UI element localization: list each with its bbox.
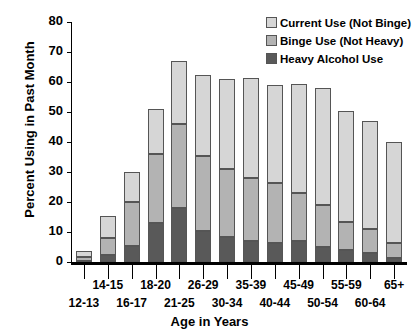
bar-30-34 bbox=[219, 79, 235, 262]
bar-65+ bbox=[386, 142, 402, 262]
x-axis-label-21-25: 21-25 bbox=[164, 296, 195, 310]
x-tick-65+ bbox=[394, 265, 395, 279]
x-axis-title: Age in Years bbox=[0, 314, 419, 329]
x-tick-45-49 bbox=[299, 265, 300, 279]
legend-swatch-current-icon bbox=[266, 17, 277, 28]
bar-segment-current-use bbox=[267, 85, 283, 183]
bar-segment-binge-use bbox=[291, 193, 307, 241]
x-tick-35-39 bbox=[251, 265, 252, 279]
x-axis-label-30-34: 30-34 bbox=[212, 296, 243, 310]
legend-item-heavy-use: Heavy Alcohol Use bbox=[266, 52, 418, 65]
x-axis-label-50-54: 50-54 bbox=[307, 296, 338, 310]
bar-segment-binge-use bbox=[100, 238, 116, 255]
x-axis-label-18-20: 18-20 bbox=[140, 278, 171, 292]
bar-segment-current-use bbox=[315, 88, 331, 205]
y-tick-label-70: 70 bbox=[49, 43, 63, 59]
x-tick-50-54 bbox=[323, 265, 324, 279]
bar-segment-binge-use bbox=[124, 202, 140, 246]
bar-14-15 bbox=[100, 216, 116, 263]
bar-segment-binge-use bbox=[243, 178, 259, 241]
legend-label-current-use: Current Use (Not Binge) bbox=[280, 17, 411, 29]
bar-segment-current-use bbox=[362, 121, 378, 229]
legend-swatch-binge-icon bbox=[266, 35, 277, 46]
legend-item-binge-use: Binge Use (Not Heavy) bbox=[266, 34, 418, 47]
bar-segment-heavy-use bbox=[100, 255, 116, 263]
x-axis-label-26-29: 26-29 bbox=[188, 278, 219, 292]
bar-35-39 bbox=[243, 78, 259, 263]
y-tick-label-40: 40 bbox=[49, 133, 63, 149]
bar-segment-current-use bbox=[100, 216, 116, 239]
bar-segment-heavy-use bbox=[124, 246, 140, 263]
x-axis-label-65+: 65+ bbox=[384, 278, 404, 292]
bar-segment-heavy-use bbox=[267, 243, 283, 263]
y-tick-label-10: 10 bbox=[49, 223, 63, 239]
bar-12-13 bbox=[76, 251, 92, 262]
bar-45-49 bbox=[291, 84, 307, 263]
x-axis-label-60-64: 60-64 bbox=[355, 296, 386, 310]
legend-label-heavy-use: Heavy Alcohol Use bbox=[280, 53, 383, 65]
x-tick-26-29 bbox=[203, 265, 204, 279]
x-axis-label-45-49: 45-49 bbox=[283, 278, 314, 292]
x-axis-label-35-39: 35-39 bbox=[236, 278, 267, 292]
bar-segment-current-use bbox=[219, 79, 235, 169]
legend-label-binge-use: Binge Use (Not Heavy) bbox=[280, 35, 403, 47]
bar-segment-heavy-use bbox=[243, 241, 259, 262]
y-tick-mark-0 bbox=[67, 262, 72, 263]
x-axis-line bbox=[71, 262, 407, 265]
bar-segment-binge-use bbox=[315, 205, 331, 247]
bar-16-17 bbox=[124, 172, 140, 262]
bar-segment-heavy-use bbox=[195, 231, 211, 263]
bar-segment-binge-use bbox=[195, 156, 211, 231]
bar-55-59 bbox=[338, 111, 354, 263]
bar-segment-current-use bbox=[243, 78, 259, 179]
bar-segment-heavy-use bbox=[386, 258, 402, 263]
bar-segment-heavy-use bbox=[362, 253, 378, 262]
bar-segment-current-use bbox=[195, 75, 211, 156]
bar-segment-binge-use bbox=[267, 183, 283, 243]
x-tick-21-25 bbox=[179, 265, 180, 279]
x-axis-label-14-15: 14-15 bbox=[92, 278, 123, 292]
x-axis-label-40-44: 40-44 bbox=[259, 296, 290, 310]
bar-50-54 bbox=[315, 88, 331, 262]
y-tick-label-80: 80 bbox=[49, 13, 63, 29]
legend: Current Use (Not Binge) Binge Use (Not H… bbox=[266, 16, 418, 70]
bar-18-20 bbox=[148, 109, 164, 262]
alcohol-use-by-age-chart: Percent Using in Past Month 80 70 60 50 … bbox=[0, 0, 419, 336]
bar-segment-binge-use bbox=[362, 229, 378, 253]
bar-60-64 bbox=[362, 121, 378, 262]
bar-26-29 bbox=[195, 75, 211, 263]
bar-segment-current-use bbox=[338, 111, 354, 222]
x-tick-18-20 bbox=[156, 265, 157, 279]
x-tick-12-13 bbox=[84, 265, 85, 279]
x-axis-label-16-17: 16-17 bbox=[116, 296, 147, 310]
bar-segment-heavy-use bbox=[338, 250, 354, 262]
bar-segment-current-use bbox=[171, 61, 187, 124]
x-axis-label-55-59: 55-59 bbox=[331, 278, 362, 292]
x-axis-label-12-13: 12-13 bbox=[69, 296, 100, 310]
bar-segment-current-use bbox=[124, 172, 140, 202]
y-tick-label-50: 50 bbox=[49, 103, 63, 119]
bar-40-44 bbox=[267, 85, 283, 262]
bar-segment-current-use bbox=[148, 109, 164, 154]
y-tick-label-60: 60 bbox=[49, 73, 63, 89]
x-tick-30-34 bbox=[227, 265, 228, 279]
bar-segment-heavy-use bbox=[148, 223, 164, 262]
bar-segment-binge-use bbox=[171, 124, 187, 208]
bar-segment-current-use bbox=[291, 84, 307, 194]
x-tick-40-44 bbox=[275, 265, 276, 279]
bar-segment-heavy-use bbox=[171, 208, 187, 262]
legend-item-current-use: Current Use (Not Binge) bbox=[266, 16, 418, 29]
bar-segment-binge-use bbox=[148, 154, 164, 223]
x-tick-16-17 bbox=[132, 265, 133, 279]
y-tick-label-30: 30 bbox=[49, 163, 63, 179]
x-tick-14-15 bbox=[108, 265, 109, 279]
bar-segment-heavy-use bbox=[291, 241, 307, 262]
bar-segment-binge-use bbox=[219, 169, 235, 237]
bar-segment-heavy-use bbox=[219, 237, 235, 263]
bar-segment-heavy-use bbox=[76, 260, 92, 262]
y-tick-label-0: 0 bbox=[56, 253, 63, 269]
bar-segment-binge-use bbox=[386, 243, 402, 258]
y-axis-title: Percent Using in Past Month bbox=[22, 5, 37, 255]
bar-segment-binge-use bbox=[338, 222, 354, 251]
x-tick-55-59 bbox=[346, 265, 347, 279]
